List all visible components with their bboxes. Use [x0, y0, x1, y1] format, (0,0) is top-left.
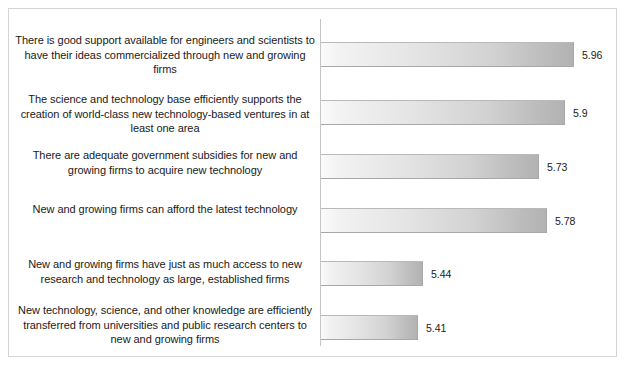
- category-label: The science and technology base efficien…: [15, 92, 315, 136]
- bar[interactable]: [321, 208, 547, 233]
- category-label: New and growing firms can afford the lat…: [15, 202, 315, 217]
- chart-frame: There is good support available for engi…: [8, 8, 617, 357]
- bar-row: 5.96: [321, 42, 574, 67]
- category-label: New technology, science, and other knowl…: [15, 303, 315, 347]
- bar-row: 5.41: [321, 315, 418, 340]
- bar-row: 5.73: [321, 154, 539, 179]
- bar-value-label: 5.73: [539, 161, 567, 173]
- bar[interactable]: [321, 315, 418, 340]
- bar[interactable]: [321, 261, 423, 286]
- bar-row: 5.9: [321, 100, 565, 125]
- bar-row: 5.44: [321, 261, 423, 286]
- bar[interactable]: [321, 100, 565, 125]
- bar-value-label: 5.78: [547, 215, 575, 227]
- bar-value-label: 5.96: [574, 49, 602, 61]
- bar-value-label: 5.9: [565, 107, 588, 119]
- plot-area: There is good support available for engi…: [9, 9, 616, 356]
- value-axis-line: [320, 19, 321, 346]
- bar[interactable]: [321, 154, 539, 179]
- bar-row: 5.78: [321, 208, 547, 233]
- bar-value-label: 5.41: [418, 322, 446, 334]
- bar[interactable]: [321, 42, 574, 67]
- category-label: There are adequate government subsidies …: [15, 148, 315, 177]
- category-label: There is good support available for engi…: [15, 33, 315, 77]
- bar-value-label: 5.44: [423, 268, 451, 280]
- category-label: New and growing firms have just as much …: [15, 257, 315, 286]
